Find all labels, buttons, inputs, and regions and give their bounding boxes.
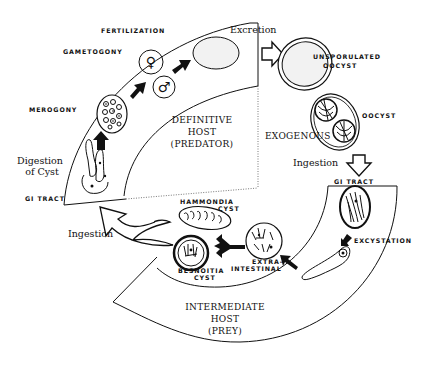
extra-intestinal-label-2: INTESTINAL [231, 265, 282, 272]
svg-text:INTERMEDIATE: INTERMEDIATE [185, 302, 265, 312]
unsporulated-oocyst-label-1: UNSPORULATED [313, 53, 381, 60]
meront-cell [97, 95, 127, 133]
extra-intestinal-cyst [246, 223, 282, 259]
svg-text:(PREDATOR): (PREDATOR) [171, 139, 234, 149]
besnoitia-cyst-label-2: CYST [194, 274, 216, 281]
ingestion-right-label: Ingestion [293, 157, 338, 168]
excystation-label: EXCYSTATION [354, 237, 412, 244]
intermediate-host-label: INTERMEDIATE HOST (PREY) [185, 302, 265, 336]
excretion-label: Excretion [230, 24, 276, 35]
female-symbol: ♀ [146, 54, 156, 70]
branch-arrow-icon [214, 234, 245, 258]
hammondia-cyst-label-2: CYST [218, 205, 240, 212]
gi-oocyst-right [340, 186, 370, 228]
arrow-right-icon [172, 60, 191, 74]
oocyst-label: OOCYST [362, 112, 396, 119]
arrow-up-icon [93, 131, 109, 150]
exogenous-label: EXOGENOUS [265, 131, 331, 141]
digestion-label-1: Digestion [17, 155, 63, 166]
ingestion-arrow-icon [347, 155, 371, 176]
predator-ingestion-arrow-icon [100, 207, 173, 245]
svg-text:(PREY): (PREY) [208, 326, 242, 336]
besnoitia-cyst [174, 236, 208, 270]
svg-text:HOST: HOST [211, 314, 240, 324]
ingestion-left-label: Ingestion [68, 228, 113, 239]
zygote-cell [193, 37, 239, 69]
digestion-label-2: of Cyst [25, 166, 59, 177]
gi-tract-left-label: GI TRACT [25, 195, 65, 202]
arrow-up-right-icon [130, 82, 146, 99]
sporulated-oocyst [302, 86, 368, 158]
unsporulated-oocyst-label-2: OOCYST [323, 62, 357, 69]
gi-tract-right-label: GI TRACT [334, 178, 374, 185]
svg-text:DEFINITIVE: DEFINITIVE [172, 115, 233, 125]
definitive-host-label: DEFINITIVE HOST (PREDATOR) [171, 115, 234, 149]
hammondia-cyst-label-1: HAMMONDIA [180, 198, 234, 205]
excystation-arrow-icon [341, 234, 352, 246]
fertilization-label: FERTILIZATION [101, 27, 165, 34]
besnoitia-cyst-label-1: BESNOITIA [178, 267, 224, 274]
svg-text:HOST: HOST [188, 127, 217, 137]
life-cycle-diagram: ♀ ♂ [0, 0, 428, 367]
male-gamete: ♂ [153, 76, 175, 98]
male-symbol: ♂ [158, 79, 171, 95]
merogony-label: MEROGONY [29, 106, 77, 113]
extra-intestinal-label-1: EXTRA- [252, 258, 283, 265]
gametogony-label: GAMETOGONY [63, 48, 123, 55]
sporozoite [302, 247, 350, 280]
female-gamete: ♀ [139, 50, 163, 74]
